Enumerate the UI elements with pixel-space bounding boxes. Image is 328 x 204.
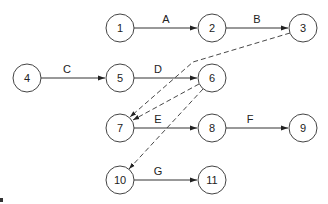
corner-mark (0, 198, 3, 202)
activity-label-C: C (63, 63, 71, 75)
node-10: 10 (106, 166, 134, 194)
activity-label-G: G (154, 165, 163, 177)
node-3: 3 (289, 14, 317, 42)
node-label-5: 5 (117, 72, 123, 84)
node-label-6: 6 (209, 72, 215, 84)
activity-label-D: D (154, 63, 162, 75)
node-4: 4 (13, 64, 41, 92)
network-diagram: A B C D E F G 1 2 3 (0, 0, 328, 204)
node-label-4: 4 (24, 72, 30, 84)
activity-label-B: B (253, 13, 260, 25)
node-label-10: 10 (114, 174, 126, 186)
activity-D: D (134, 63, 197, 78)
node-8: 8 (198, 114, 226, 142)
node-label-2: 2 (209, 22, 215, 34)
node-11: 11 (198, 166, 226, 194)
node-label-9: 9 (300, 122, 306, 134)
activity-C: C (41, 63, 105, 78)
node-6: 6 (198, 64, 226, 92)
node-label-8: 8 (209, 122, 215, 134)
activity-label-F: F (247, 113, 254, 125)
activity-E: E (134, 113, 197, 128)
node-7: 7 (106, 114, 134, 142)
dummy-6-to-7 (133, 84, 199, 120)
activity-B: B (226, 13, 288, 28)
dummy-6-to-10 (129, 89, 203, 169)
activity-label-A: A (162, 13, 170, 25)
activity-G: G (134, 165, 197, 180)
node-label-1: 1 (117, 22, 123, 34)
activity-F: F (226, 113, 288, 128)
node-5: 5 (106, 64, 134, 92)
node-9: 9 (289, 114, 317, 142)
activity-A: A (134, 13, 197, 28)
node-label-11: 11 (206, 174, 217, 186)
node-1: 1 (106, 14, 134, 42)
node-label-7: 7 (117, 122, 123, 134)
node-label-3: 3 (300, 22, 306, 34)
node-2: 2 (198, 14, 226, 42)
activity-label-E: E (154, 113, 161, 125)
